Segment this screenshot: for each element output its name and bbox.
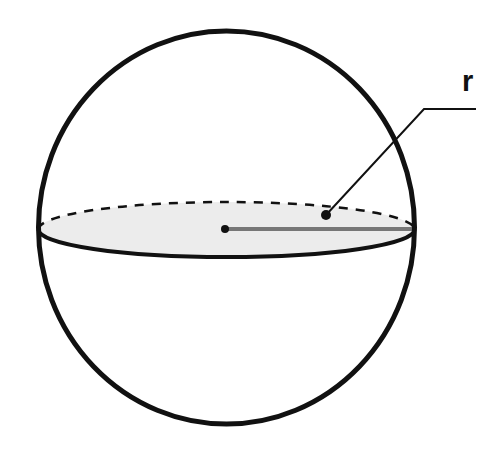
- leader-dot: [321, 210, 331, 220]
- radius-label: r: [462, 65, 473, 97]
- center-point: [221, 225, 229, 233]
- leader-line: [326, 109, 476, 215]
- sphere-diagram: r: [0, 0, 498, 452]
